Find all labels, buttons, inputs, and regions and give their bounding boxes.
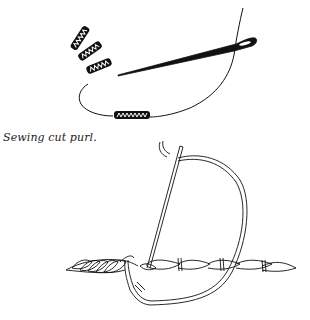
thread-tail <box>159 141 170 157</box>
illustration <box>0 0 310 320</box>
sewing-cut-purl-figure: Sewing cut purl. <box>0 0 310 320</box>
top-illustration <box>70 8 257 119</box>
threaded-purl-piece <box>114 111 150 119</box>
figure-caption: Sewing cut purl. <box>3 131 97 144</box>
bottom-illustration <box>66 141 296 305</box>
loose-purl-pieces <box>70 25 113 75</box>
thread-upper <box>150 8 243 117</box>
needle-icon <box>147 146 183 268</box>
thread-lower <box>79 84 113 116</box>
thread-loop <box>125 156 247 305</box>
